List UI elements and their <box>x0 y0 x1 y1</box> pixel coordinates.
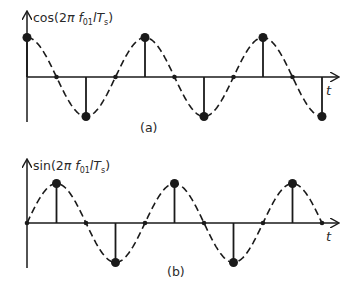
y-axis-label-b: sin(2π f01lTs) <box>33 158 110 175</box>
caption-b: (b) <box>167 264 185 279</box>
sample-point <box>320 221 325 226</box>
sample-point <box>288 179 297 188</box>
diagram-canvas: cos(2π f01lTs) t (a) sin(2π f01lTs) t (b… <box>0 0 357 294</box>
sample-point <box>84 221 89 226</box>
sample-point <box>261 221 266 226</box>
sample-point <box>111 258 120 267</box>
sample-point <box>200 112 209 121</box>
sample-point <box>52 179 61 188</box>
sample-point <box>172 75 177 80</box>
sample-point <box>318 112 327 121</box>
sample-point <box>290 75 295 80</box>
sample-point <box>141 33 150 42</box>
sample-point <box>170 179 179 188</box>
sample-point <box>231 75 236 80</box>
sample-point <box>259 33 268 42</box>
panel-b-sine: sin(2π f01lTs) t (b) <box>25 158 338 279</box>
sample-point <box>23 33 32 42</box>
x-axis-label-b: t <box>326 229 332 244</box>
sample-point <box>202 221 207 226</box>
caption-a: (a) <box>140 120 157 135</box>
sample-point <box>113 75 118 80</box>
x-axis-label-a: t <box>326 83 332 98</box>
sample-point <box>54 75 59 80</box>
sample-point <box>82 112 91 121</box>
sample-point <box>143 221 148 226</box>
y-axis-label-a: cos(2π f01lTs) <box>33 10 113 27</box>
panel-a-cosine: cos(2π f01lTs) t (a) <box>23 10 339 135</box>
sample-point <box>25 221 30 226</box>
sample-point <box>229 258 238 267</box>
